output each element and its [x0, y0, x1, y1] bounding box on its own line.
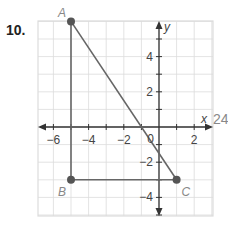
x-tick-label: −6: [47, 133, 61, 147]
y-axis-up-arrow-icon: [156, 21, 163, 29]
y-tick-label: −2: [139, 155, 153, 169]
point-label-c: C: [182, 185, 191, 199]
y-tick-label: 4: [146, 50, 153, 64]
y-tick-label: 2: [146, 85, 153, 99]
x-tick-label: 2: [191, 133, 198, 147]
coordinate-plane: −6−4−2242−2−40xy24ABC: [0, 0, 228, 225]
x-axis-label: x: [200, 112, 208, 126]
origin-label: 0: [147, 132, 154, 146]
x-tick-label: −2: [117, 133, 131, 147]
point-label-a: A: [57, 6, 66, 20]
x-axis-left-arrow-icon: [38, 124, 46, 131]
stray-text: 24: [213, 111, 228, 127]
x-tick-label: −4: [82, 133, 96, 147]
labels: −6−4−2242−2−40xy24ABC: [47, 6, 228, 204]
point-c: [173, 176, 181, 184]
point-a: [67, 17, 75, 25]
y-tick-label: −4: [139, 190, 153, 204]
y-axis-label: y: [163, 20, 171, 34]
point-b: [67, 176, 75, 184]
point-label-b: B: [58, 185, 66, 199]
